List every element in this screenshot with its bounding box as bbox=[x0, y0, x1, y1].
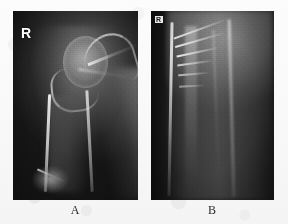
side-marker-r-b: R bbox=[155, 16, 163, 23]
figure-container: R R A B bbox=[0, 0, 288, 224]
panel-caption-b: B bbox=[192, 203, 232, 218]
side-marker-r-a: R bbox=[21, 26, 32, 40]
radiograph-panel-a: R bbox=[13, 11, 138, 200]
lateral-exposure-glow-a bbox=[101, 68, 139, 200]
radiograph-panel-b: R bbox=[151, 11, 274, 200]
film-margin-b bbox=[151, 11, 167, 200]
soft-tissue-shadow-b bbox=[168, 11, 271, 200]
panel-caption-a: A bbox=[55, 203, 95, 218]
